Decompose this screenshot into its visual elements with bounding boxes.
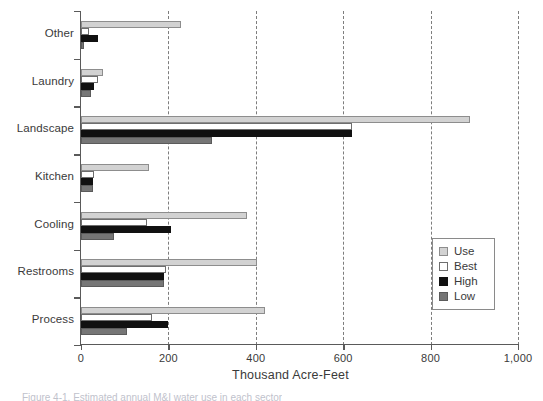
legend-item-best[interactable]: Best [439, 259, 489, 273]
bar-cooling-high [81, 226, 171, 233]
y-tick-bottom [74, 345, 81, 346]
legend-item-high[interactable]: High [439, 274, 489, 288]
x-tick-label-1000: 1,000 [504, 352, 533, 364]
gridline-1000 [518, 11, 519, 345]
x-axis-title-text: Thousand Acre-Feet [232, 368, 349, 382]
y-tick-landscape [74, 106, 81, 107]
bar-kitchen-high [81, 178, 93, 185]
legend-label-low: Low [454, 290, 475, 302]
figure-caption: Figure 4-1. Estimated annual M&I water u… [22, 392, 282, 401]
legend-label-use: Use [454, 245, 474, 257]
category-label-landscape: Landscape [1, 122, 74, 134]
bar-laundry-high [81, 83, 94, 90]
x-tick-label-200: 200 [159, 352, 178, 364]
bar-process-low [81, 328, 127, 335]
bar-landscape-low [81, 137, 212, 144]
x-axis-title: Thousand Acre-Feet [0, 368, 543, 382]
bar-cooling-use [81, 212, 247, 219]
category-label-other: Other [1, 27, 74, 39]
bar-laundry-best [81, 76, 98, 83]
bar-landscape-use [81, 116, 470, 123]
y-tick-restrooms [74, 250, 81, 251]
legend-item-use[interactable]: Use [439, 244, 489, 258]
bar-process-best [81, 314, 152, 321]
y-tick-other [74, 11, 81, 12]
legend-swatch-use-icon [439, 247, 448, 256]
legend-swatch-best-icon [439, 262, 448, 271]
bar-restrooms-low [81, 280, 164, 287]
y-tick-laundry [74, 59, 81, 60]
y-tick-cooling [74, 202, 81, 203]
bar-other-best [81, 28, 89, 35]
category-label-kitchen: Kitchen [1, 170, 74, 182]
legend-label-high: High [454, 275, 478, 287]
bar-laundry-low [81, 90, 91, 97]
bar-cooling-best [81, 219, 147, 226]
legend-swatch-high-icon [439, 277, 448, 286]
x-tick-label-800: 800 [421, 352, 440, 364]
bar-other-low [81, 42, 84, 49]
category-label-restrooms: Restrooms [1, 265, 74, 277]
bar-restrooms-high [81, 273, 164, 280]
bar-landscape-best [81, 123, 352, 130]
bar-laundry-use [81, 69, 103, 76]
bar-chart: 02004006008001,000 OtherLaundryLandscape… [0, 0, 543, 401]
bar-restrooms-use [81, 259, 257, 266]
x-tick-label-400: 400 [246, 352, 265, 364]
bar-process-use [81, 307, 265, 314]
bar-process-high [81, 321, 168, 328]
bar-kitchen-low [81, 185, 93, 192]
category-label-process: Process [1, 313, 74, 325]
bar-kitchen-use [81, 164, 149, 171]
category-label-laundry: Laundry [1, 75, 74, 87]
legend-label-best: Best [454, 260, 477, 272]
y-tick-kitchen [74, 154, 81, 155]
legend-item-low[interactable]: Low [439, 289, 489, 303]
x-tick-1000 [518, 344, 519, 350]
bar-landscape-high [81, 130, 352, 137]
bar-restrooms-best [81, 266, 166, 273]
chart-legend: UseBestHighLow [432, 238, 495, 310]
legend-swatch-low-icon [439, 292, 448, 301]
category-label-cooling: Cooling [1, 218, 74, 230]
bar-other-high [81, 35, 98, 42]
y-tick-process [74, 297, 81, 298]
x-tick-label-0: 0 [78, 352, 84, 364]
x-tick-label-600: 600 [334, 352, 353, 364]
bar-kitchen-best [81, 171, 94, 178]
bar-other-use [81, 21, 181, 28]
bar-cooling-low [81, 233, 114, 240]
